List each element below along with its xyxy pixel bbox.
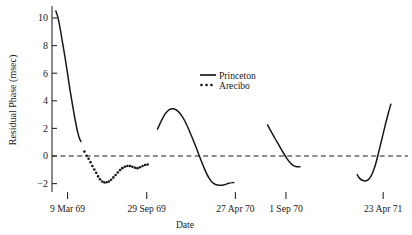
y-axis: −20246810 bbox=[37, 6, 57, 192]
princeton-curve-segment bbox=[56, 11, 81, 141]
princeton-curve-segment bbox=[268, 125, 300, 167]
arecibo-data-point bbox=[119, 169, 122, 172]
x-tick-label: 1 Sep 70 bbox=[269, 203, 303, 214]
arecibo-data-point bbox=[146, 163, 149, 166]
arecibo-data-point bbox=[103, 181, 106, 184]
chart-legend: Princeton Arecibo bbox=[200, 70, 256, 91]
arecibo-data-point bbox=[95, 172, 98, 175]
x-axis-title: Date bbox=[176, 219, 194, 230]
arecibo-data-point bbox=[91, 165, 94, 168]
arecibo-data-point bbox=[144, 164, 147, 167]
arecibo-data-point bbox=[85, 154, 88, 157]
y-axis-tick-labels: −20246810 bbox=[37, 12, 48, 189]
y-tick-label: 6 bbox=[43, 68, 48, 79]
arecibo-data-point bbox=[101, 180, 104, 183]
arecibo-data-point bbox=[121, 167, 124, 170]
arecibo-data-point bbox=[83, 150, 86, 153]
arecibo-data-point bbox=[134, 166, 137, 169]
arecibo-data-point bbox=[117, 171, 120, 174]
arecibo-data-point bbox=[139, 166, 142, 169]
arecibo-data-point bbox=[99, 178, 102, 181]
arecibo-data-point bbox=[89, 161, 92, 164]
y-tick-label: −2 bbox=[37, 178, 48, 189]
arecibo-data-point bbox=[129, 165, 132, 168]
arecibo-data-point bbox=[123, 165, 126, 168]
arecibo-data-point bbox=[105, 181, 108, 184]
arecibo-data-point bbox=[136, 167, 139, 170]
x-axis: 9 Mar 6929 Sep 6927 Apr 701 Sep 7023 Apr… bbox=[50, 192, 403, 214]
y-tick-label: 8 bbox=[43, 40, 48, 51]
y-axis-title: Residual Phase (msec) bbox=[7, 55, 19, 146]
arecibo-data-point bbox=[87, 157, 90, 160]
y-axis-ticks bbox=[52, 18, 57, 184]
x-tick-label: 23 Apr 71 bbox=[364, 203, 403, 214]
x-axis-ticks bbox=[68, 192, 384, 199]
arecibo-data-point bbox=[141, 165, 144, 168]
princeton-curve-segment bbox=[158, 109, 234, 186]
arecibo-data-point bbox=[97, 175, 100, 178]
y-tick-label: 10 bbox=[38, 12, 48, 23]
arecibo-data-point bbox=[110, 178, 113, 181]
series-princeton bbox=[56, 11, 391, 185]
x-tick-label: 9 Mar 69 bbox=[50, 203, 85, 214]
y-tick-label: 4 bbox=[43, 95, 48, 106]
arecibo-data-point bbox=[114, 174, 117, 177]
arecibo-data-point bbox=[93, 168, 96, 171]
arecibo-data-point bbox=[108, 180, 111, 183]
arecibo-data-point bbox=[112, 176, 115, 179]
series-arecibo bbox=[83, 150, 149, 184]
princeton-curve-segment bbox=[357, 104, 391, 181]
arecibo-data-point bbox=[126, 165, 129, 168]
residual-phase-chart: −20246810 Residual Phase (msec) 9 Mar 69… bbox=[0, 0, 412, 235]
y-tick-label: 0 bbox=[43, 150, 48, 161]
x-tick-label: 29 Sep 69 bbox=[128, 203, 167, 214]
legend-arecibo-dotted-icon bbox=[200, 84, 213, 87]
x-tick-label: 27 Apr 70 bbox=[216, 203, 255, 214]
legend-label-arecibo: Arecibo bbox=[219, 80, 250, 91]
x-axis-tick-labels: 9 Mar 6929 Sep 6927 Apr 701 Sep 7023 Apr… bbox=[50, 203, 403, 214]
chart-canvas: −20246810 Residual Phase (msec) 9 Mar 69… bbox=[0, 0, 412, 235]
y-tick-label: 2 bbox=[43, 123, 48, 134]
arecibo-data-point bbox=[131, 165, 134, 168]
